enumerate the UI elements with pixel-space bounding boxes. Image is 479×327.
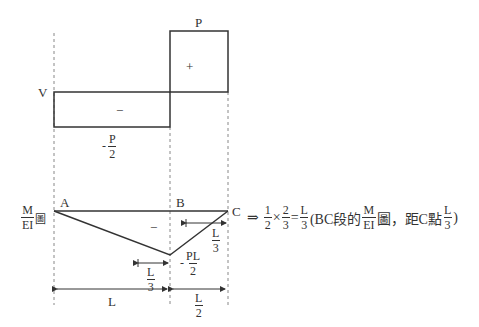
denominator: 2: [108, 146, 116, 160]
fraction: M EI: [21, 204, 34, 231]
denominator: 2: [189, 263, 197, 277]
centroid-left-distance: L 3: [146, 266, 155, 293]
shear-diagram: [54, 31, 228, 127]
centroid-expression: ⇒ 1 2 × 2 3 = L 3 (BC段的 M EI 圖，距C點 L 3 ): [247, 204, 458, 231]
denominator: 3: [212, 240, 220, 254]
shear-negative-value: - P 2: [102, 133, 117, 160]
moment-sign: −: [150, 221, 157, 234]
expression-text-mid: 圖，距C點: [377, 208, 442, 228]
fraction-m-ei: M EI: [362, 204, 375, 231]
moment-min-value: - PL 2: [180, 250, 201, 277]
fraction-l-third-2: L 3: [443, 204, 452, 231]
implies-icon: ⇒: [247, 209, 259, 226]
denominator: 2: [264, 217, 272, 231]
point-a-label: A: [60, 196, 69, 209]
point-c-label: C: [232, 205, 241, 218]
denominator: EI: [362, 217, 375, 231]
denominator: 3: [282, 217, 290, 231]
denominator: EI: [21, 217, 34, 231]
numerator: L: [443, 204, 452, 217]
denominator: 3: [300, 217, 308, 231]
expression-text-close: ): [453, 210, 458, 226]
fraction-two-thirds: 2 3: [282, 204, 290, 231]
denominator: 2: [195, 305, 203, 319]
fraction: PL 2: [185, 250, 201, 277]
numerator: L: [146, 266, 155, 279]
minus-sign: -: [102, 139, 106, 154]
shear-positive-sign: +: [186, 60, 193, 73]
guide-lines: [54, 33, 228, 305]
minus-sign: -: [180, 256, 184, 271]
moment-axis-label: M EI 圖: [21, 204, 46, 231]
diagram-suffix: 圖: [35, 210, 46, 226]
shear-negative-sign: −: [116, 104, 123, 117]
expression-text-open: (BC段的: [310, 208, 361, 228]
point-b-label: B: [176, 196, 185, 209]
numerator: 1: [264, 204, 272, 217]
moment-diagram: [54, 211, 228, 255]
numerator: P: [108, 133, 117, 146]
numerator: 2: [282, 204, 290, 217]
numerator: L: [211, 227, 220, 240]
fraction-l-third: L 3: [300, 204, 309, 231]
fraction: P 2: [108, 133, 117, 160]
shear-axis-label: V: [38, 86, 47, 99]
numerator: L: [194, 292, 203, 305]
span-ab-label: L: [108, 295, 116, 308]
numerator: M: [363, 204, 376, 217]
span-bc-label: L 2: [194, 292, 203, 319]
denominator: 3: [147, 279, 155, 293]
fraction-half: 1 2: [264, 204, 272, 231]
numerator: PL: [185, 250, 201, 263]
centroid-right-distance: L 3: [211, 227, 220, 254]
numerator: M: [21, 204, 34, 217]
shear-positive-value: P: [195, 16, 202, 29]
denominator: 3: [444, 217, 452, 231]
equals-sign: =: [291, 210, 299, 226]
numerator: L: [300, 204, 309, 217]
diagram-graphics: [0, 0, 479, 327]
times-sign: ×: [273, 210, 281, 226]
